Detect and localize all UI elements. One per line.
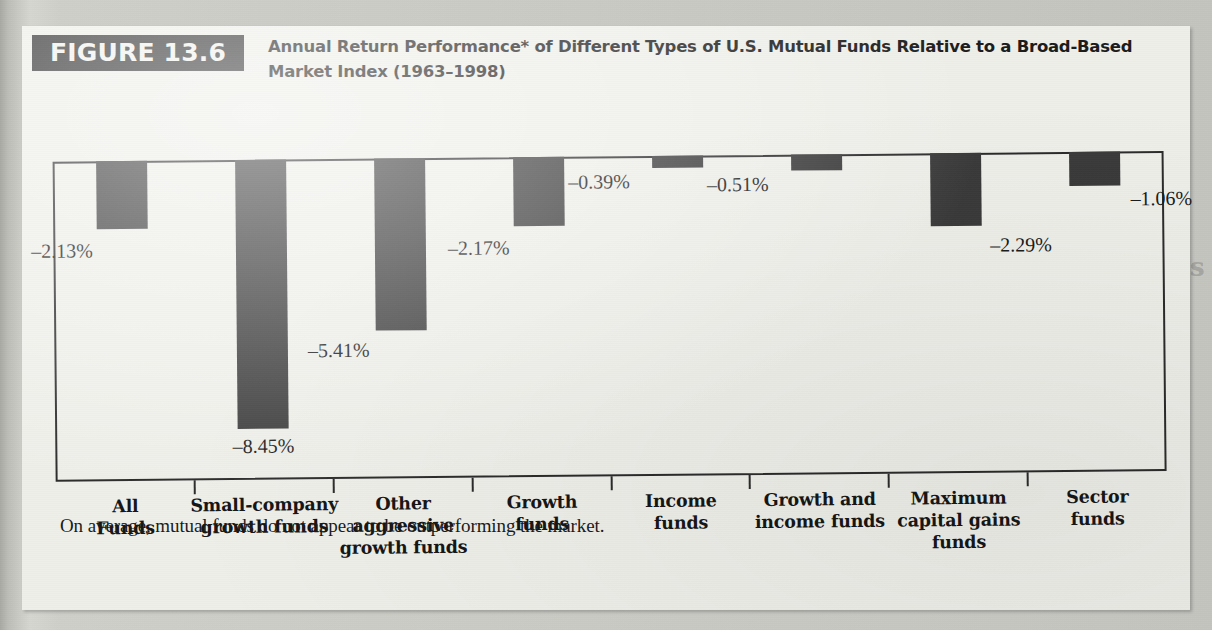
figure-title: Annual Return Performance* of Different … bbox=[268, 34, 1158, 84]
figure-card: FIGURE 13.6 Annual Return Performance* o… bbox=[22, 26, 1190, 610]
bar bbox=[235, 159, 289, 428]
bar-group: –0.51% bbox=[747, 154, 889, 475]
bar-group: –0.39% bbox=[608, 155, 750, 476]
bar bbox=[97, 161, 149, 229]
category-labels: AllFundsSmall-companygrowth fundsOtherag… bbox=[56, 485, 1168, 596]
bar bbox=[791, 154, 842, 171]
bar-group: –1.06% bbox=[1025, 151, 1167, 472]
bars-layer: –2.13%–8.45%–5.41%–2.17%–0.39%–0.51%–2.2… bbox=[53, 151, 1167, 482]
axis-tick bbox=[1027, 472, 1029, 486]
bar bbox=[930, 153, 982, 226]
bar-value-label: –0.51% bbox=[707, 173, 769, 197]
bar bbox=[652, 155, 703, 168]
bar-group: –5.41% bbox=[330, 158, 472, 479]
bar-value-label: –2.17% bbox=[448, 236, 510, 260]
category-label-line: Sector bbox=[1006, 485, 1189, 509]
bar-group: –2.13% bbox=[53, 160, 195, 481]
axis-tick bbox=[610, 476, 612, 490]
axis-tick bbox=[194, 480, 196, 494]
category-label-line: funds bbox=[1006, 507, 1189, 531]
figure-header: FIGURE 13.6 Annual Return Performance* o… bbox=[22, 26, 1190, 100]
bar-value-label: –1.06% bbox=[1130, 186, 1192, 210]
bar-group: –2.17% bbox=[469, 156, 611, 477]
figure-footnote: On average, mutual funds do not appear t… bbox=[60, 515, 604, 537]
figure-number-badge: FIGURE 13.6 bbox=[32, 35, 244, 71]
bar-value-label: –5.41% bbox=[308, 339, 370, 363]
bar bbox=[1069, 151, 1120, 185]
axis-tick bbox=[471, 478, 473, 492]
axis-tick bbox=[332, 479, 334, 493]
bar-group: –8.45% bbox=[191, 159, 333, 480]
bar bbox=[513, 157, 565, 226]
axis-tick bbox=[888, 474, 890, 488]
axis-tick bbox=[749, 475, 751, 489]
bar-value-label: –8.45% bbox=[233, 434, 295, 458]
bar-group: –2.29% bbox=[886, 152, 1028, 473]
category-label: Sectorfunds bbox=[1006, 485, 1189, 531]
bar-value-label: –2.13% bbox=[31, 239, 93, 263]
bar-value-label: –0.39% bbox=[568, 171, 630, 195]
category-label-line: funds bbox=[867, 530, 1050, 554]
page-background: comparison of active and passive extent … bbox=[0, 0, 1212, 630]
category-label-line: growth funds bbox=[312, 535, 495, 559]
bar bbox=[374, 158, 427, 331]
